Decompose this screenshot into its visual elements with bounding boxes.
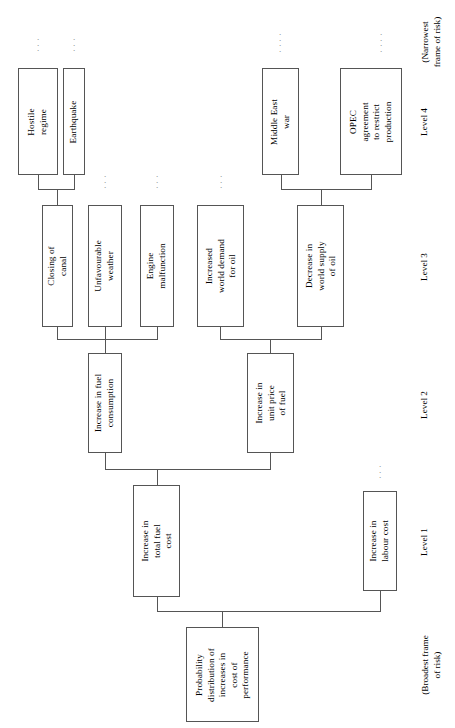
node-decrease-in-world-supply-of-oil: Decrease in world supply of oil — [297, 205, 344, 327]
connector-l4b-bus — [281, 189, 372, 190]
node-probability-distribution-root-label: Probability distribution of increases in… — [194, 648, 252, 702]
frame-label-narrowest: (Narrowest frame of risk) — [420, 17, 443, 68]
node-increase-in-fuel-consumption: Increase in fuel consumption — [88, 353, 122, 453]
node-earthquake: Earthquake — [63, 68, 85, 175]
ellipsis-earthquake: . . . — [71, 35, 77, 52]
node-hostile-regime: Hostile regime — [18, 68, 58, 175]
connector-canal-stub — [57, 327, 58, 339]
level-label-level-2: Level 2 — [419, 391, 431, 419]
node-increased-world-demand-for-oil-label: Increased world demand for oil — [203, 239, 238, 293]
level-label-level-1: Level 1 — [419, 528, 431, 556]
node-increase-in-unit-price-of-fuel: Increase in unit price of fuel — [247, 353, 294, 453]
connector-world-supply-stub — [321, 327, 322, 339]
node-engine-malfunction: Engine malfunction — [140, 205, 174, 327]
node-increase-in-unit-price-of-fuel-label: Increase in unit price of fuel — [253, 382, 288, 423]
connector-opec-stub — [371, 175, 372, 189]
connector-engine-stub — [157, 327, 158, 339]
frame-label-broadest: (Broadest frame of risk) — [420, 635, 443, 694]
connector-l4a-to-canal — [57, 189, 58, 205]
connector-l3b-bus — [220, 339, 322, 340]
node-increase-in-total-fuel-cost: Increase in total fuel cost — [133, 485, 180, 597]
connector-l1-to-root — [222, 611, 223, 627]
node-unfavourable-weather: Unfavourable weather — [88, 205, 122, 327]
ellipsis-engine-malfunction: . . . — [154, 172, 160, 189]
ellipsis-increase-in-labour-cost: . . . — [377, 462, 383, 479]
node-closing-of-canal: Closing of canal — [42, 205, 73, 327]
node-closing-of-canal-label: Closing of canal — [46, 246, 69, 286]
connector-world-demand-stub — [220, 327, 221, 339]
connector-hostile-regime-stub — [38, 175, 39, 189]
connector-l2-to-total-fuel-cost — [157, 469, 158, 485]
ellipsis-opec-agreement: . . . . — [378, 30, 384, 52]
node-increase-in-fuel-consumption-label: Increase in fuel consumption — [93, 374, 116, 432]
node-engine-malfunction-label: Engine malfunction — [145, 243, 168, 289]
node-opec-agreement: OPEC agreement to restrict production — [340, 68, 402, 175]
node-middle-east-war-label: Middle East war — [269, 99, 292, 145]
node-increase-in-total-fuel-cost-label: Increase in total fuel cost — [139, 520, 174, 561]
node-increase-in-labour-cost: Increase in labour cost — [363, 491, 397, 591]
level-label-level-4: Level 4 — [419, 108, 431, 136]
node-decrease-in-world-supply-of-oil-label: Decrease in world supply of oil — [303, 241, 338, 290]
node-increase-in-labour-cost-label: Increase in labour cost — [368, 520, 391, 562]
connector-middle-east-war-stub — [281, 175, 282, 189]
node-probability-distribution-root: Probability distribution of increases in… — [186, 627, 259, 722]
node-hostile-regime-label: Hostile regime — [26, 108, 49, 135]
connector-l1-bus — [157, 611, 381, 612]
connector-l3a-to-fuel-consumption — [105, 339, 106, 353]
ellipsis-middle-east-war: . . . . — [277, 30, 283, 52]
node-increased-world-demand-for-oil: Increased world demand for oil — [197, 205, 244, 327]
ellipsis-hostile-regime: . . . — [35, 35, 41, 52]
connector-fuel-consumption-stub — [105, 453, 106, 469]
connector-l3b-to-unit-price — [270, 339, 271, 353]
node-opec-agreement-label: OPEC agreement to restrict production — [348, 101, 394, 142]
connector-total-fuel-cost-stub — [157, 597, 158, 611]
node-earthquake-label: Earthquake — [68, 100, 80, 143]
connector-unit-price-stub — [270, 453, 271, 469]
risk-tree-diagram: Hostile regime . . . Earthquake . . . Mi… — [0, 0, 455, 728]
level-label-level-3: Level 3 — [419, 253, 431, 281]
connector-labour-cost-stub — [380, 591, 381, 611]
ellipsis-increased-world-demand: . . . — [218, 172, 224, 189]
connector-l4b-to-world-supply — [321, 189, 322, 205]
node-middle-east-war: Middle East war — [262, 68, 299, 175]
connector-weather-stub — [105, 327, 106, 339]
connector-l2-bus — [105, 469, 271, 470]
connector-earthquake-stub — [74, 175, 75, 189]
connector-l3a-bus — [57, 339, 158, 340]
node-unfavourable-weather-label: Unfavourable weather — [93, 240, 116, 292]
ellipsis-unfavourable-weather: . . . — [102, 172, 108, 189]
